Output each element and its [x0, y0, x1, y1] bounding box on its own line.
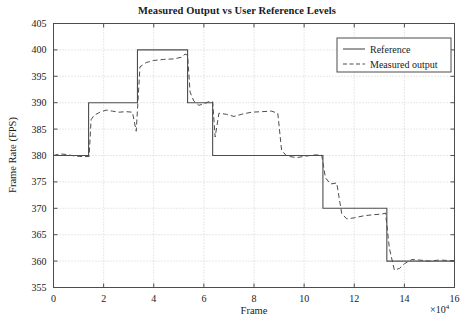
x-tick-label: 16 [450, 293, 460, 304]
x-tick-label: 4 [151, 293, 156, 304]
figure-container: Measured Output vs User Reference Levels… [0, 0, 474, 323]
x-axis-exponent-power: 4 [446, 303, 450, 311]
y-tick-label: 365 [32, 229, 47, 240]
legend-label-reference: Reference [370, 44, 411, 55]
y-tick-label: 355 [32, 282, 47, 293]
y-tick-label: 390 [32, 97, 47, 108]
x-axis-exponent-base: ×10 [430, 304, 446, 315]
y-tick-label: 375 [32, 176, 47, 187]
chart-legend[interactable]: ReferenceMeasured output [337, 38, 451, 72]
y-tick-label: 370 [32, 203, 47, 214]
y-tick-label: 380 [32, 150, 47, 161]
y-tick-label: 405 [32, 18, 47, 29]
x-tick-label: 0 [51, 293, 56, 304]
y-tick-label: 385 [32, 124, 47, 135]
x-axis-exponent: ×104 [430, 303, 450, 315]
x-tick-label: 12 [349, 293, 359, 304]
x-tick-label: 14 [399, 293, 409, 304]
legend-label-measured-output: Measured output [370, 59, 438, 70]
y-tick-label: 395 [32, 71, 47, 82]
y-tick-label: 400 [32, 44, 47, 55]
y-axis-title: Frame Rate (FPS) [7, 117, 19, 193]
chart-plot-area: 355360365370375380385390395400405 024681… [0, 0, 474, 323]
x-tick-label: 10 [299, 293, 309, 304]
x-tick-label: 8 [252, 293, 257, 304]
x-tick-label: 6 [201, 293, 206, 304]
x-tick-label: 2 [101, 293, 106, 304]
y-tick-label: 360 [32, 256, 47, 267]
x-axis-title: Frame [241, 305, 268, 316]
